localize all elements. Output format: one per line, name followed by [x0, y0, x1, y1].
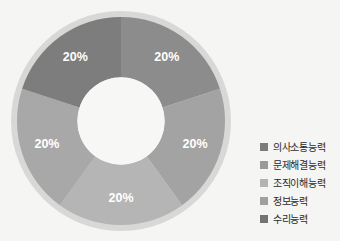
legend-item-4[interactable]: 수리능력	[260, 210, 340, 227]
donut-center-hole	[77, 77, 164, 164]
chart-legend: 의사소통능력 문제해결능력 조직이해능력 정보능력 수리능력	[260, 138, 340, 228]
donut-chart-svg: 20% 20% 20% 20% 20%	[0, 0, 245, 241]
legend-swatch-icon-1	[260, 161, 268, 169]
legend-label-3: 정보능력	[273, 193, 308, 208]
slice-value-label-4: 20%	[63, 50, 88, 64]
legend-item-0[interactable]: 의사소통능력	[260, 138, 340, 155]
slice-value-label-0: 20%	[154, 50, 179, 64]
legend-swatch-icon-4	[260, 215, 268, 223]
legend-item-2[interactable]: 조직이해능력	[260, 174, 340, 191]
slice-value-label-1: 20%	[183, 137, 208, 151]
legend-item-3[interactable]: 정보능력	[260, 192, 340, 209]
legend-label-2: 조직이해능력	[273, 175, 325, 190]
legend-swatch-icon-2	[260, 179, 268, 187]
legend-swatch-icon-0	[260, 143, 268, 151]
donut-chart-figure: 20% 20% 20% 20% 20% 의사소통능력 문제해결능력 조직이해능력…	[0, 0, 340, 241]
legend-swatch-icon-3	[260, 197, 268, 205]
slice-value-label-2: 20%	[108, 191, 133, 205]
slice-value-label-3: 20%	[34, 137, 59, 151]
chart-plot-area: 20% 20% 20% 20% 20%	[0, 0, 245, 241]
legend-label-0: 의사소통능력	[273, 139, 325, 154]
legend-label-4: 수리능력	[273, 211, 308, 226]
legend-item-1[interactable]: 문제해결능력	[260, 156, 340, 173]
legend-label-1: 문제해결능력	[273, 157, 325, 172]
